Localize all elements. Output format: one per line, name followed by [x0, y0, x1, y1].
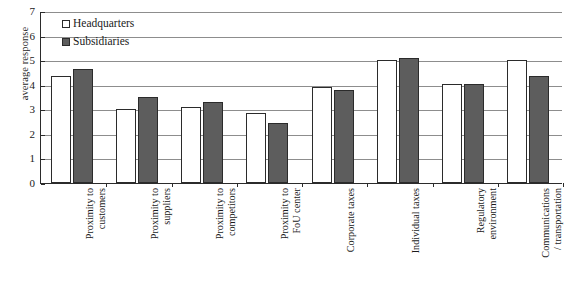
x-tick-mark — [237, 183, 238, 187]
bar-subsidiaries — [268, 123, 288, 183]
bar-headquarters — [116, 109, 136, 183]
y-tick-mark — [41, 184, 45, 185]
bar-headquarters — [181, 107, 201, 183]
x-category-label: Proximity to suppliers — [149, 188, 163, 284]
y-tick-label: 7 — [13, 6, 35, 17]
x-tick-mark — [563, 183, 564, 187]
bar-headquarters — [507, 60, 527, 183]
bar-headquarters — [442, 84, 462, 184]
y-tick-label: 1 — [13, 153, 35, 164]
x-tick-mark — [302, 183, 303, 187]
bar-subsidiaries — [334, 90, 354, 183]
y-tick-label: 0 — [13, 178, 35, 189]
bar-chart: average response 01234567 Headquarters S… — [0, 0, 567, 284]
legend-label-headquarters: Headquarters — [73, 16, 134, 31]
x-category-label: Regulatory environment — [475, 188, 489, 284]
bar-headquarters — [312, 87, 332, 183]
bar-headquarters — [377, 60, 397, 183]
x-tick-mark — [367, 183, 368, 187]
x-tick-mark — [498, 183, 499, 187]
bar-subsidiaries — [529, 76, 549, 183]
y-tick-label: 3 — [13, 104, 35, 115]
bar-subsidiaries — [203, 102, 223, 183]
y-tick-label: 2 — [13, 129, 35, 140]
x-tick-mark — [433, 183, 434, 187]
x-category-label: Individual taxes — [410, 188, 424, 284]
bar-subsidiaries — [464, 84, 484, 184]
y-tick-label: 4 — [13, 80, 35, 91]
x-category-label: Proximity to competitors — [214, 188, 228, 284]
x-category-label: Corporate taxes — [345, 188, 359, 284]
x-category-label: Proximity to customers — [84, 188, 98, 284]
x-tick-mark — [172, 183, 173, 187]
bar-subsidiaries — [399, 58, 419, 183]
x-axis-category-labels: Proximity to customersProximity to suppl… — [40, 188, 562, 284]
bar-headquarters — [246, 113, 266, 183]
legend-item-headquarters: Headquarters — [62, 16, 134, 31]
headquarters-swatch-icon — [62, 20, 70, 28]
y-tick-label: 5 — [13, 55, 35, 66]
bar-subsidiaries — [73, 69, 93, 183]
bar-subsidiaries — [138, 97, 158, 183]
legend-item-subsidiaries: Subsidiaries — [62, 34, 134, 49]
chart-legend: Headquarters Subsidiaries — [62, 16, 134, 52]
x-category-label: Proximity to FoU center — [279, 188, 293, 284]
x-category-label: Communications / transportation — [540, 188, 554, 284]
legend-label-subsidiaries: Subsidiaries — [73, 34, 129, 49]
subsidiaries-swatch-icon — [62, 38, 70, 46]
bar-headquarters — [51, 76, 71, 183]
x-tick-mark — [106, 183, 107, 187]
y-tick-label: 6 — [13, 31, 35, 42]
